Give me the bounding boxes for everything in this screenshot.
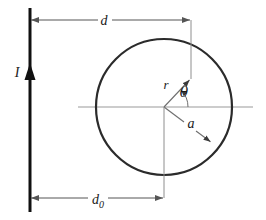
- dimension-d-group: [31, 20, 191, 79]
- radius-vector-label: r: [163, 77, 169, 92]
- circle-radius-a-segment-1: [164, 107, 184, 122]
- current-label: I: [14, 65, 21, 80]
- circle-radius-a-segment-2: [196, 131, 211, 142]
- dimension-d0-label: d0: [92, 192, 104, 210]
- diagram-canvas: I d r θ a d0: [0, 0, 266, 220]
- physics-diagram-figure: I d r θ a d0: [0, 0, 266, 220]
- current-direction-arrowhead: [25, 63, 36, 80]
- theta-angle-label: θ: [180, 84, 189, 100]
- circle-radius-label: a: [188, 116, 195, 131]
- current-wire-group: [25, 8, 36, 212]
- dimension-d0-subscript: 0: [99, 199, 104, 210]
- dimension-d-label: d: [101, 13, 109, 28]
